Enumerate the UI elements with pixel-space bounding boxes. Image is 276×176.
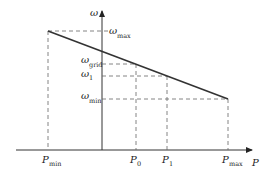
svg-text:ω: ω bbox=[81, 68, 89, 79]
svg-text:0: 0 bbox=[137, 160, 141, 168]
svg-text:P: P bbox=[161, 154, 169, 165]
svg-text:max: max bbox=[117, 32, 131, 40]
svg-text:ω: ω bbox=[109, 25, 117, 36]
svg-text:1: 1 bbox=[89, 74, 93, 82]
droop-line bbox=[48, 31, 228, 99]
svg-text:ω: ω bbox=[81, 90, 89, 101]
label-omega-min: ω min bbox=[81, 90, 101, 105]
svg-text:1: 1 bbox=[169, 160, 173, 168]
svg-text:P: P bbox=[129, 154, 137, 165]
x-axis-label: P bbox=[251, 157, 259, 168]
label-p-0: P 0 bbox=[129, 154, 141, 168]
svg-text:P: P bbox=[221, 154, 229, 165]
svg-text:ω: ω bbox=[81, 54, 89, 65]
label-omega-grid: ω grid bbox=[81, 54, 103, 69]
droop-diagram: ω P ω max ω grid ω 1 ω min P min P 0 P 1… bbox=[0, 0, 276, 176]
svg-text:P: P bbox=[41, 154, 49, 165]
label-omega-max: ω max bbox=[109, 25, 131, 40]
label-omega-1: ω 1 bbox=[81, 68, 93, 82]
y-axis-label: ω bbox=[90, 7, 98, 18]
label-p-min: P min bbox=[41, 154, 61, 168]
guide-lines bbox=[48, 31, 228, 150]
svg-text:min: min bbox=[49, 160, 61, 168]
svg-text:max: max bbox=[229, 160, 243, 168]
svg-text:min: min bbox=[89, 97, 101, 105]
label-p-1: P 1 bbox=[161, 154, 173, 168]
label-p-max: P max bbox=[221, 154, 243, 168]
svg-text:grid: grid bbox=[89, 61, 103, 69]
